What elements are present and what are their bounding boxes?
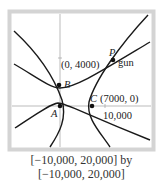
- label-b-coord: (0, 4000): [61, 59, 100, 71]
- point-b: [57, 83, 62, 88]
- window-caption-x: [−10,000, 20,000] by: [0, 153, 163, 167]
- point-a: [58, 104, 63, 109]
- label-c: C: [90, 93, 98, 104]
- point-c: [90, 104, 95, 109]
- label-p: P: [108, 47, 116, 58]
- tick-label-x: 10,000: [103, 110, 132, 121]
- label-a: A: [50, 108, 58, 119]
- point-p: [111, 58, 116, 63]
- graph-window: (0, 4000) B A C (7000, 0) 10,000 P gun: [0, 0, 163, 160]
- label-c-coord: (7000, 0): [100, 93, 139, 105]
- window-caption-y: [−10,000, 20,000]: [0, 167, 163, 181]
- label-gun: gun: [118, 57, 135, 68]
- label-b: B: [64, 79, 71, 90]
